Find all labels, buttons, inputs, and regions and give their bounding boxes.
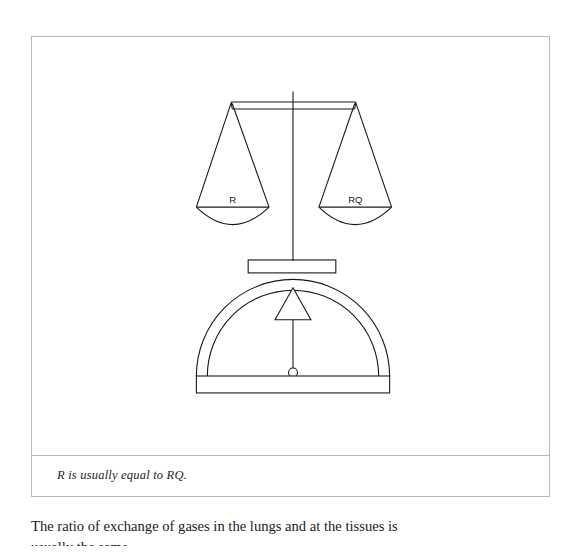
right-cord-inner	[319, 104, 355, 208]
right-cord-outer	[356, 103, 392, 208]
left-pan-bowl	[196, 207, 269, 224]
figure-box: R RQ	[31, 36, 550, 497]
body-paragraph: The ratio of exchange of gases in the lu…	[31, 516, 551, 546]
right-pan-bowl	[319, 207, 392, 224]
fulcrum-plate	[248, 260, 336, 273]
pointer-triangle	[275, 288, 311, 320]
figure-illustration-area: R RQ	[32, 37, 549, 456]
figure-caption-strip: R is usually equal to RQ.	[32, 455, 549, 496]
base-plate	[196, 376, 389, 393]
figure-caption: R is usually equal to RQ.	[57, 468, 187, 483]
body-paragraph-line-2: usually the same.	[31, 537, 551, 546]
left-cord-outer	[196, 103, 231, 208]
right-pan-label: RQ	[348, 194, 362, 205]
body-paragraph-line-1: The ratio of exchange of gases in the lu…	[31, 516, 551, 537]
left-pan-label: R	[229, 194, 236, 205]
left-cord-inner	[232, 104, 269, 208]
balance-scale-diagram: R RQ	[32, 37, 549, 456]
